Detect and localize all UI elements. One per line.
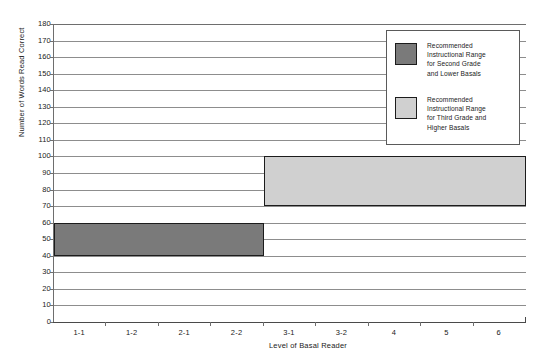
x-axis-tick-label: 4 <box>374 328 414 337</box>
legend: RecommendedInstructional Rangefor Second… <box>386 30 520 145</box>
legend-label-line: Recommended <box>427 41 515 50</box>
y-axis-tick-label: 130 <box>29 103 51 111</box>
x-axis-tick-label: 1-1 <box>59 328 99 337</box>
x-axis-title: Level of Basal Reader <box>0 341 544 350</box>
y-axis-tick-label: 0 <box>29 318 51 326</box>
y-axis-tick-label: 40 <box>29 252 51 260</box>
legend-label-line: Instructional Range <box>427 50 515 59</box>
y-axis-tick-labels: 0102030405060708090100110120130140150160… <box>27 0 51 362</box>
y-axis-tickmark <box>50 140 54 141</box>
y-axis-tickmark <box>50 74 54 75</box>
y-axis-tickmark <box>50 206 54 207</box>
x-axis-tick-label: 2-1 <box>164 328 204 337</box>
legend-swatch-1 <box>395 43 417 65</box>
y-axis-tick-label: 50 <box>29 235 51 243</box>
x-axis-tickmark <box>210 322 211 326</box>
y-axis-tickmark <box>50 289 54 290</box>
x-axis-tick-label: 5 <box>426 328 466 337</box>
x-axis-tick-label: 6 <box>479 328 519 337</box>
y-axis-tickmark <box>50 41 54 42</box>
y-axis-tick-label: 170 <box>29 37 51 45</box>
x-axis-tickmark <box>315 322 316 326</box>
legend-label-line: Higher Basals <box>427 123 515 132</box>
x-axis-tickmark <box>263 322 264 326</box>
y-axis-tick-label: 120 <box>29 119 51 127</box>
y-axis-tickmark <box>50 173 54 174</box>
gridline <box>54 289 526 290</box>
legend-label-line: Instructional Range <box>427 104 515 113</box>
legend-label-line: for Third Grade and <box>427 113 515 122</box>
legend-label-line: and Lower Basals <box>427 69 515 78</box>
y-axis-tickmark <box>50 107 54 108</box>
legend-swatch-2 <box>395 97 417 119</box>
instructional-range-band-1 <box>54 223 264 256</box>
instructional-range-band-2 <box>264 156 526 206</box>
x-axis-tickmark <box>368 322 369 326</box>
x-axis-tickmark <box>473 322 474 326</box>
y-axis-tick-label: 110 <box>29 136 51 144</box>
y-axis-tick-label: 10 <box>29 301 51 309</box>
y-axis-tickmark <box>50 156 54 157</box>
y-axis-tick-label: 140 <box>29 86 51 94</box>
x-axis-tick-label: 1-2 <box>112 328 152 337</box>
x-axis-tick-label: 2-2 <box>217 328 257 337</box>
x-axis-right-cap <box>525 317 526 322</box>
y-axis-tick-label: 60 <box>29 219 51 227</box>
gridline <box>54 305 526 306</box>
y-axis-tick-label: 90 <box>29 169 51 177</box>
gridline <box>54 256 526 257</box>
legend-label-2: RecommendedInstructional Rangefor Third … <box>427 95 515 132</box>
y-axis-tick-label: 160 <box>29 53 51 61</box>
x-axis-tick-label: 3-1 <box>269 328 309 337</box>
x-axis-tick-label: 3-2 <box>321 328 361 337</box>
x-axis-tickmark <box>105 322 106 326</box>
gridline <box>54 206 526 207</box>
y-axis-tick-label: 150 <box>29 70 51 78</box>
y-axis-tick-label: 20 <box>29 285 51 293</box>
y-axis-tick-label: 100 <box>29 152 51 160</box>
y-axis-tickmark <box>50 123 54 124</box>
gridline <box>54 24 526 25</box>
legend-label-1: RecommendedInstructional Rangefor Second… <box>427 41 515 78</box>
x-axis-line <box>53 322 525 323</box>
y-axis-tickmark <box>50 305 54 306</box>
y-axis-tickmark <box>50 272 54 273</box>
y-axis-tick-label: 80 <box>29 186 51 194</box>
y-axis-tick-label: 70 <box>29 202 51 210</box>
legend-label-line: Recommended <box>427 95 515 104</box>
x-axis-title-text: Level of Basal Reader <box>269 341 347 350</box>
x-axis-tickmark <box>420 322 421 326</box>
y-axis-tickmark <box>50 256 54 257</box>
y-axis-tickmark <box>50 90 54 91</box>
y-axis-tickmark <box>50 57 54 58</box>
x-axis-tickmark <box>158 322 159 326</box>
y-axis-tickmark <box>50 190 54 191</box>
legend-label-line: for Second Grade <box>427 59 515 68</box>
y-axis-tick-label: 180 <box>29 20 51 28</box>
y-axis-tickmark <box>50 24 54 25</box>
reading-fluency-range-chart: Number of Words Read Correct 01020304050… <box>0 0 544 362</box>
gridline <box>54 272 526 273</box>
y-axis-tick-label: 30 <box>29 268 51 276</box>
